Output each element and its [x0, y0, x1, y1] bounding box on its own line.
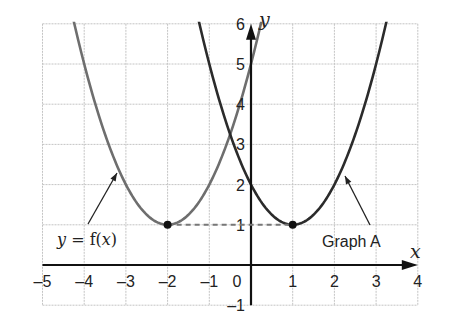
y-tick-label: 2	[236, 177, 245, 194]
x-tick-label: –1	[200, 273, 218, 290]
graph-a-label: Graph A	[322, 233, 381, 250]
grid	[43, 24, 418, 305]
x-tick-label: –2	[159, 273, 177, 290]
graph-a-label-arrow-head-icon	[345, 176, 351, 184]
graph-a-label-arrow	[345, 176, 370, 225]
curves	[72, 12, 389, 225]
x-tick-label: –3	[117, 273, 135, 290]
x-tick-label: 4	[413, 273, 422, 290]
annotations	[88, 173, 370, 229]
y-axis-arrow-icon	[246, 24, 256, 40]
y-tick-label: 4	[236, 96, 245, 113]
f-label-arrow	[88, 173, 117, 224]
vertex-point	[164, 221, 172, 229]
y-tick-label: –1	[227, 297, 245, 314]
y-tick-label: 3	[236, 136, 245, 153]
tick-labels: –5–4–3–2–101234–1123456	[34, 16, 423, 314]
y-axis-label: y	[258, 8, 270, 30]
x-tick-label: 1	[288, 273, 297, 290]
x-tick-label: 0	[233, 273, 242, 290]
x-tick-label: 3	[372, 273, 381, 290]
graph-chart: –5–4–3–2–101234–1123456 x y y = f(x) Gra…	[0, 0, 450, 326]
f-label-close: )	[111, 230, 117, 249]
vertex-point	[289, 221, 297, 229]
x-tick-label: –5	[34, 273, 52, 290]
y-tick-label: 6	[236, 16, 245, 33]
f-label: y = f(x)	[56, 230, 117, 249]
x-tick-label: 2	[330, 273, 339, 290]
f-label-eq: = f(	[66, 230, 102, 249]
axes	[43, 24, 418, 305]
y-tick-label: 5	[236, 56, 245, 73]
f-label-arrow-head-icon	[110, 173, 117, 181]
x-tick-label: –4	[75, 273, 93, 290]
f-label-x: x	[102, 230, 111, 249]
x-axis-label: x	[410, 240, 421, 262]
